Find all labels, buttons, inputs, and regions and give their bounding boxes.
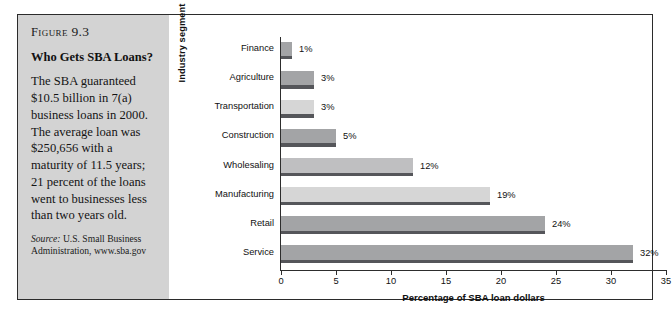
bar-fill [281,42,292,57]
bar-value-label: 32% [640,248,659,258]
x-axis-tick [611,270,612,275]
x-axis-title: Percentage of SBA loan dollars [281,292,666,303]
bar: 5% [281,129,336,147]
bar: 19% [281,187,490,205]
x-axis-tick [281,270,282,275]
x-axis-tick-label: 15 [441,276,451,286]
bar-value-label: 5% [343,131,356,141]
bar-row: Transportation3% [281,95,666,124]
x-axis-tick-label: 30 [606,276,616,286]
x-axis-tick [501,270,502,275]
bar-shadow [281,56,292,59]
bar-row: Service32% [281,241,666,270]
bar-fill [281,158,413,173]
x-axis-tick [446,270,447,275]
source-label: Source: [31,233,60,244]
bar-fill [281,100,314,115]
figure-title: Who Gets SBA Loans? [31,50,158,64]
bar-category-label: Construction [222,130,274,140]
bar-category-label: Finance [241,43,274,53]
bar-category-label: Manufacturing [215,189,274,199]
bar-row: Finance1% [281,37,666,66]
bar: 3% [281,100,314,118]
x-axis-tick [391,270,392,275]
figure-frame: Figure 9.3 Who Gets SBA Loans? The SBA g… [17,14,653,300]
bar-category-label: Service [243,247,274,257]
bar-value-label: 12% [420,161,439,171]
bar: 32% [281,245,633,263]
bar-value-label: 3% [321,102,334,112]
figure-number-word: Figure [31,25,68,39]
bar-shadow [281,260,633,263]
x-axis-tick [336,270,337,275]
bar-category-label: Wholesaling [223,160,274,170]
bar-value-label: 1% [299,44,312,54]
bar-row: Retail24% [281,212,666,241]
bar: 3% [281,71,314,89]
bar-category-label: Retail [250,218,274,228]
bar-shadow [281,114,314,117]
figure-caption-panel: Figure 9.3 Who Gets SBA Loans? The SBA g… [18,15,169,299]
bar-row: Manufacturing19% [281,183,666,212]
x-axis-tick [556,270,557,275]
x-axis-tick-label: 10 [386,276,396,286]
x-axis-tick [666,270,667,275]
bar-row: Agriculture3% [281,66,666,95]
bar-category-label: Transportation [214,101,274,111]
bar-row: Construction5% [281,124,666,153]
bar-shadow [281,173,413,176]
bar-shadow [281,202,490,205]
bar-value-label: 3% [321,73,334,83]
bar: 24% [281,216,545,234]
figure-source: Source: U.S. Small Business Administrati… [31,233,158,257]
bar-value-label: 19% [497,190,516,200]
x-axis-tick-label: 25 [551,276,561,286]
x-axis-tick-label: 5 [333,276,338,286]
chart-area: Industry segment Finance1%Agriculture3%T… [169,15,652,299]
bar-chart-plot: Finance1%Agriculture3%Transportation3%Co… [281,37,666,270]
x-axis-tick-label: 35 [661,276,671,286]
bar-value-label: 24% [552,219,571,229]
bar-fill [281,71,314,86]
bar-shadow [281,85,314,88]
bar-category-label: Agriculture [230,72,274,82]
bar-fill [281,129,336,144]
bar-row: Wholesaling12% [281,154,666,183]
x-axis-line [280,270,666,271]
figure-body-text: The SBA guaranteed $10.5 billion in 7(a)… [31,73,158,224]
bar: 1% [281,42,292,60]
bar: 12% [281,158,413,176]
bar-fill [281,216,545,231]
bar-fill [281,245,633,260]
y-axis-title: Industry segment [177,0,187,103]
x-axis-tick-label: 0 [278,276,283,286]
bar-shadow [281,231,545,234]
x-axis-tick-label: 20 [496,276,506,286]
bar-shadow [281,143,336,146]
figure-number-value: 9.3 [71,24,89,39]
bar-fill [281,187,490,202]
figure-number: Figure 9.3 [31,24,158,40]
